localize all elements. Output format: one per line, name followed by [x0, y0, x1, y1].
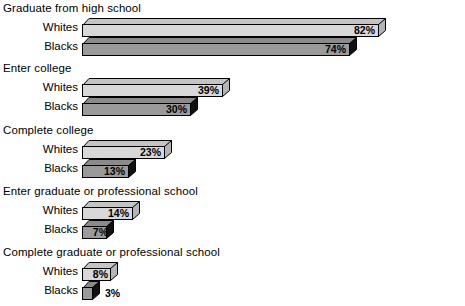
bar-3d: 74% — [82, 37, 359, 56]
bar-row: Blacks74% — [0, 37, 465, 56]
bar-group-title: Graduate from high school — [3, 2, 141, 15]
bar-row-label: Blacks — [0, 159, 78, 178]
bar-row-label: Whites — [0, 201, 78, 220]
bar-side-face — [110, 262, 117, 281]
bar-row-label: Whites — [0, 140, 78, 159]
bar-front-face — [82, 287, 93, 300]
bar-row: Blacks3% — [0, 281, 465, 300]
bar-3d: 7% — [82, 220, 116, 239]
bar-row: Whites39% — [0, 78, 465, 97]
bar-side-face — [132, 201, 139, 220]
bar-value-label: 30% — [163, 103, 187, 116]
bar-value-label: 82% — [351, 24, 375, 37]
bar-row-label: Blacks — [0, 97, 78, 116]
education-attainment-bar-chart: Graduate from high schoolWhites82%Blacks… — [0, 0, 465, 306]
bar-value-label: 39% — [195, 84, 219, 97]
bar-3d: 23% — [82, 140, 174, 159]
bar-side-face — [378, 18, 385, 37]
bar-side-face — [92, 281, 99, 300]
bar-3d: 3% — [82, 281, 102, 300]
bar-side-face — [190, 97, 197, 116]
bar-side-face — [164, 140, 171, 159]
bar-row: Blacks13% — [0, 159, 465, 178]
bar-3d: 39% — [82, 78, 232, 97]
bar-value-label: 7% — [84, 226, 108, 239]
bar-row-label: Blacks — [0, 220, 78, 239]
bar-group-title: Complete graduate or professional school — [3, 246, 220, 259]
bar-3d: 13% — [82, 159, 138, 178]
bar-row: Whites23% — [0, 140, 465, 159]
bar-side-face — [222, 78, 229, 97]
bar-3d: 8% — [82, 262, 120, 281]
bar-group-title: Enter graduate or professional school — [3, 185, 198, 198]
bar-3d: 30% — [82, 97, 200, 116]
bar-front-face — [82, 43, 350, 56]
bar-row: Whites8% — [0, 262, 465, 281]
bar-3d: 14% — [82, 201, 142, 220]
bar-row: Whites82% — [0, 18, 465, 37]
bar-row-label: Whites — [0, 262, 78, 281]
bar-side-face — [349, 37, 356, 56]
bar-side-face — [128, 159, 135, 178]
bar-row: Whites14% — [0, 201, 465, 220]
bar-value-label: 23% — [137, 146, 161, 159]
bar-group-title: Complete college — [3, 124, 93, 137]
bar-group-title: Enter college — [3, 62, 71, 75]
bar-3d: 82% — [82, 18, 388, 37]
bar-row-label: Blacks — [0, 37, 78, 56]
bar-row-label: Whites — [0, 78, 78, 97]
bar-row: Blacks7% — [0, 220, 465, 239]
bar-value-label: 74% — [322, 43, 346, 56]
bar-value-label: 3% — [105, 287, 120, 300]
bar-value-label: 8% — [84, 268, 108, 281]
bar-row-label: Whites — [0, 18, 78, 37]
bar-row: Blacks30% — [0, 97, 465, 116]
bar-front-face — [82, 24, 379, 37]
bar-row-label: Blacks — [0, 281, 78, 300]
bar-value-label: 14% — [105, 207, 129, 220]
bar-value-label: 13% — [101, 165, 125, 178]
